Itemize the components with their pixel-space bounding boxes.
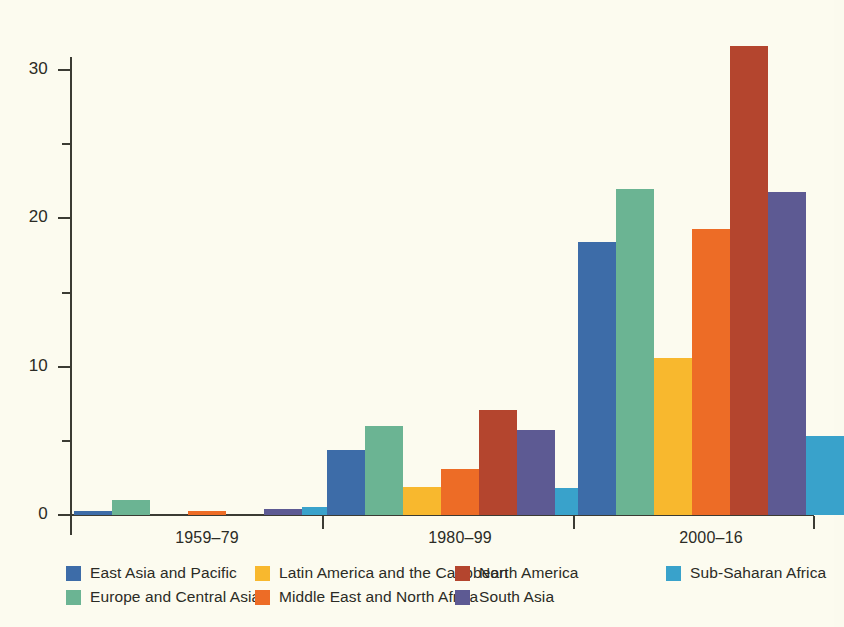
legend-label: East Asia and Pacific [90, 565, 237, 581]
bar [806, 436, 844, 515]
y-axis-tick [58, 217, 70, 219]
y-axis-minor-tick [62, 292, 70, 294]
bar [768, 192, 806, 515]
bar [578, 242, 616, 515]
bar [441, 469, 479, 515]
y-axis-tick [58, 366, 70, 368]
bar [365, 426, 403, 515]
legend-item[interactable]: Europe and Central Asia [66, 586, 260, 608]
legend-item[interactable]: Middle East and North Africa [255, 586, 478, 608]
legend-swatch [455, 566, 470, 581]
legend-item[interactable]: Sub-Saharan Africa [666, 562, 826, 584]
legend-swatch [66, 566, 81, 581]
x-axis-tick [813, 516, 815, 529]
legend-label: North America [479, 565, 579, 581]
y-axis-line [70, 57, 72, 535]
legend-label: Europe and Central Asia [90, 589, 260, 605]
y-axis-tick-label: 30 [8, 59, 48, 79]
x-axis-tick [573, 516, 575, 529]
bar [616, 189, 654, 515]
bar [403, 487, 441, 515]
y-axis-tick-label: 0 [8, 504, 48, 524]
legend-swatch [66, 590, 81, 605]
bar [327, 450, 365, 515]
bar [479, 410, 517, 515]
bar [517, 430, 555, 515]
y-axis-tick-label: 20 [8, 207, 48, 227]
legend-label: South Asia [479, 589, 554, 605]
bar [730, 46, 768, 515]
legend-row: Europe and Central AsiaMiddle East and N… [66, 586, 826, 610]
bar [692, 229, 730, 515]
y-axis-tick [58, 69, 70, 71]
bar [654, 358, 692, 515]
y-axis-tick-label: 10 [8, 356, 48, 376]
x-axis-group-label: 2000–16 [578, 529, 844, 547]
y-axis-minor-tick [62, 143, 70, 145]
legend-swatch [255, 566, 270, 581]
bar [74, 511, 112, 515]
bar [188, 511, 226, 515]
legend-label: Middle East and North Africa [279, 589, 478, 605]
bar [264, 509, 302, 515]
y-axis-tick [58, 514, 70, 516]
legend-item[interactable]: North America [455, 562, 579, 584]
legend-label: Sub-Saharan Africa [690, 565, 826, 581]
legend: East Asia and PacificLatin America and t… [66, 562, 826, 610]
legend-item[interactable]: East Asia and Pacific [66, 562, 237, 584]
x-axis-tick [322, 516, 324, 529]
legend-swatch [455, 590, 470, 605]
x-axis-group-label: 1980–99 [327, 529, 593, 547]
x-axis-group-label: 1959–79 [74, 529, 340, 547]
bar [112, 500, 150, 515]
legend-row: East Asia and PacificLatin America and t… [66, 562, 826, 586]
legend-item[interactable]: South Asia [455, 586, 554, 608]
legend-swatch [666, 566, 681, 581]
y-axis-minor-tick [62, 440, 70, 442]
legend-swatch [255, 590, 270, 605]
